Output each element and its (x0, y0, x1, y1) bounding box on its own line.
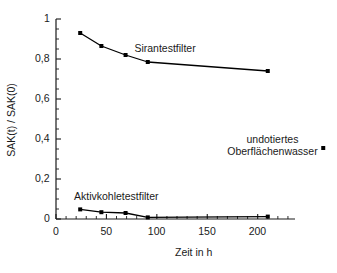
x-tick-label: 200 (249, 226, 267, 237)
y-tick-label: 0 (44, 213, 50, 224)
data-point-marker (124, 211, 128, 215)
annotation-marker-group (321, 146, 325, 150)
data-point-marker (99, 210, 103, 214)
data-point-marker (266, 215, 270, 219)
y-tick-label: 0,4 (35, 133, 50, 144)
annotation-line-2: Oberflächenwasser (227, 145, 317, 157)
x-tick-label: 0 (53, 226, 59, 237)
y-tick-label: 0,2 (35, 173, 50, 184)
series-label-sirantestfilter: Sirantestfilter (134, 42, 195, 54)
x-tick-label: 100 (148, 226, 166, 237)
data-point-marker (124, 53, 128, 57)
data-point-marker (146, 215, 150, 219)
data-point-marker (78, 207, 82, 211)
data-point-marker (99, 44, 103, 48)
annotation-undotiertes-oberflaechenwasser: undotiertes Oberflächenwasser (227, 133, 317, 157)
x-tick-label: 150 (198, 226, 216, 237)
x-axis-title: Zeit in h (175, 247, 212, 258)
y-tick-label: 1 (44, 13, 50, 24)
y-tick-label: 0,6 (35, 93, 50, 104)
series-line-1 (80, 209, 268, 217)
chart-container: SAK(t) / SAK(0) 050100150200 00,20,40,60… (0, 0, 337, 273)
annotation-line-1: undotiertes (246, 133, 298, 145)
series-label-aktivkohletestfilter: Aktivkohletestfilter (74, 190, 159, 202)
y-tick-label: 0,8 (35, 53, 50, 64)
x-tick-label: 50 (100, 226, 112, 237)
data-point-marker (78, 31, 82, 35)
data-point-marker (266, 69, 270, 73)
data-point-marker (146, 60, 150, 64)
y-axis-title: SAK(t) / SAK(0) (5, 83, 17, 157)
annotation-data-point-marker (321, 146, 325, 150)
